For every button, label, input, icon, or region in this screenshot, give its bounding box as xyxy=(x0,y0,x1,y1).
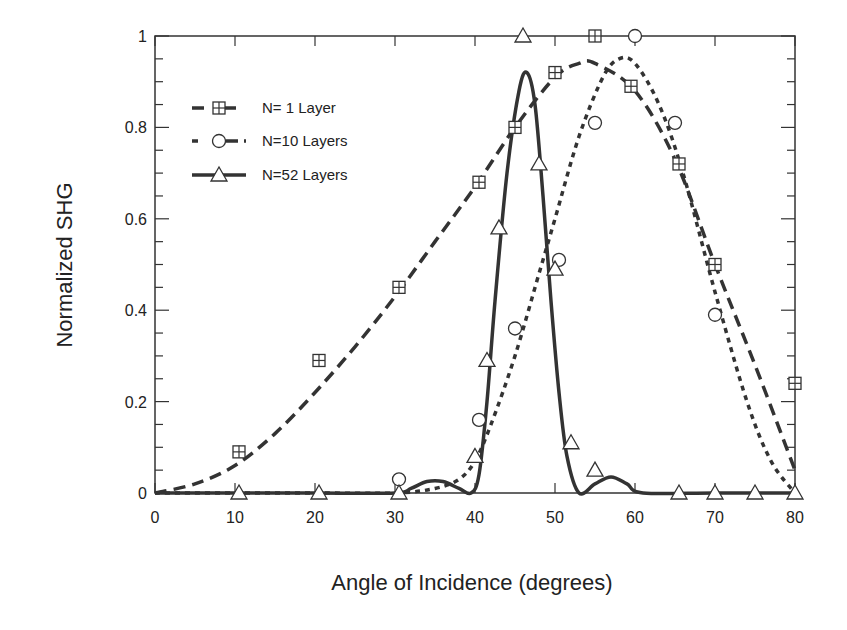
circle-marker xyxy=(473,413,486,426)
y-tick-label: 0.4 xyxy=(125,302,147,319)
square-plus-marker xyxy=(473,176,485,188)
x-tick-label: 10 xyxy=(226,509,244,526)
x-tick-label: 70 xyxy=(706,509,724,526)
square-plus-marker xyxy=(673,158,685,170)
square-plus-marker xyxy=(313,354,325,366)
y-axis-title: Normalized SHG xyxy=(52,182,77,347)
square-plus-marker xyxy=(789,377,801,389)
series-curves xyxy=(155,57,795,494)
series-curve-1 xyxy=(155,57,795,493)
x-tick-label: 40 xyxy=(466,509,484,526)
circle-marker xyxy=(709,308,722,321)
square-plus-marker xyxy=(625,80,637,92)
legend: N= 1 LayerN=10 LayersN=52 Layers xyxy=(192,99,347,183)
square-plus-marker xyxy=(509,121,521,133)
circle-marker xyxy=(509,322,522,335)
y-tick-label: 1 xyxy=(138,28,147,45)
x-tick-label: 0 xyxy=(151,509,160,526)
y-tick-label: 0.8 xyxy=(125,119,147,136)
square-plus-marker xyxy=(709,259,721,271)
triangle-marker xyxy=(531,156,547,170)
triangle-marker xyxy=(587,462,603,476)
circle-marker xyxy=(589,116,602,129)
triangle-marker xyxy=(479,352,495,366)
x-tick-label: 20 xyxy=(306,509,324,526)
square-plus-marker xyxy=(393,281,405,293)
square-plus-marker xyxy=(213,102,225,114)
square-plus-marker xyxy=(549,67,561,79)
square-plus-marker xyxy=(589,30,601,42)
square-plus-marker xyxy=(233,446,245,458)
triangle-marker xyxy=(515,28,531,42)
y-tick-label: 0.2 xyxy=(125,394,147,411)
circle-marker xyxy=(629,30,642,43)
legend-label: N= 1 Layer xyxy=(262,99,336,116)
chart-canvas: 0102030405060708000.20.40.60.81 N= 1 Lay… xyxy=(0,0,847,630)
circle-marker xyxy=(669,116,682,129)
series-curve-2 xyxy=(155,72,795,494)
x-tick-label: 30 xyxy=(386,509,404,526)
circle-marker xyxy=(213,135,226,148)
legend-label: N=52 Layers xyxy=(262,166,347,183)
x-tick-label: 50 xyxy=(546,509,564,526)
series-curve-0 xyxy=(155,61,795,493)
x-axis-title: Angle of Incidence (degrees) xyxy=(331,570,612,595)
x-tick-label: 60 xyxy=(626,509,644,526)
x-tick-label: 80 xyxy=(786,509,804,526)
y-tick-label: 0.6 xyxy=(125,211,147,228)
axis-ticks: 0102030405060708000.20.40.60.81 xyxy=(125,28,804,526)
legend-label: N=10 Layers xyxy=(262,132,347,149)
y-tick-label: 0 xyxy=(138,485,147,502)
triangle-marker xyxy=(491,220,507,234)
